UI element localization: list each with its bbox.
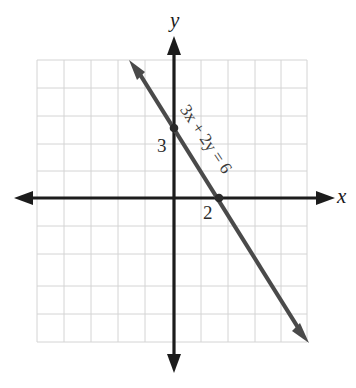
- x-intercept-tick-label: 2: [203, 203, 213, 222]
- coordinate-plane-svg: [0, 0, 356, 388]
- y-axis-label: y: [170, 10, 179, 31]
- grid-lines: [37, 60, 307, 342]
- y-axis-bottom-arrowhead: [167, 354, 181, 373]
- x-axis-label: x: [337, 186, 346, 207]
- y-intercept-tick-label: 3: [157, 136, 167, 155]
- x-axis-left-arrowhead: [14, 191, 33, 205]
- y-axis-top-arrowhead: [167, 36, 181, 55]
- graph-figure: y x 3 2 3x + 2y = 6: [0, 0, 356, 388]
- y-axis: [167, 36, 181, 373]
- x-intercept-point: [215, 194, 224, 203]
- x-axis-right-arrowhead: [316, 191, 335, 205]
- y-intercept-point: [170, 124, 179, 133]
